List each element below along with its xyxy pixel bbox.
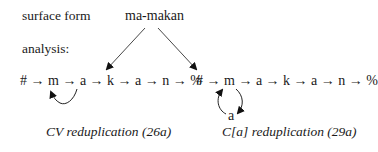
analysis-label: analysis: — [22, 42, 69, 56]
surface-word: ma-makan — [125, 9, 184, 23]
ca-loop-node: a — [228, 109, 234, 123]
ca-caption: C[a] reduplication (29a) — [222, 125, 357, 139]
loop-arc-right-down — [236, 89, 242, 113]
surface-form-label: surface form — [22, 9, 91, 23]
arrow-to-ca — [158, 28, 196, 69]
arrow-to-cv — [107, 28, 145, 69]
ca-chain: # → m → a → k → a → n → % — [196, 74, 378, 88]
cv-chain: # → m → a → k → a → n → % — [20, 74, 202, 88]
loop-arc-right-up — [218, 90, 226, 114]
reduplication-arc-left — [51, 89, 77, 104]
cv-caption: CV reduplication (26a) — [46, 125, 171, 139]
